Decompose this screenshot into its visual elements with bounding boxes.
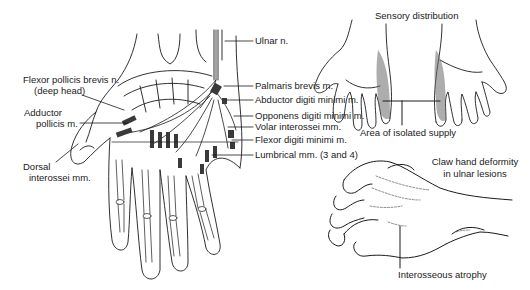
label-dorsal-interossei: Dorsal <box>23 161 50 172</box>
label-interosseous-atrophy: Interosseous atrophy <box>398 269 487 280</box>
label-palmaris-brevis: Palmaris brevis m. <box>255 80 333 91</box>
sensory-distribution-title: Sensory distribution <box>375 10 458 21</box>
label-adductor-pollicis: Adductor <box>24 107 62 118</box>
label-lumbrical: Lumbrical mm. (3 and 4) <box>255 149 358 160</box>
label-flexor-pollicis-brevis-sub: (deep head) <box>34 85 85 96</box>
label-abductor-digiti-minimi: Abductor digiti minimi m. <box>255 94 358 105</box>
label-flexor-pollicis-brevis: Flexor pollicis brevis n. <box>23 74 119 85</box>
label-ulnar-nerve: Ulnar n. <box>255 35 288 46</box>
claw-hand-title-line2: in ulnar lesions <box>420 168 530 179</box>
label-dorsal-interossei-sub: interossei mm. <box>29 172 91 183</box>
label-volar-interossei: Volar interossei mm. <box>255 121 341 132</box>
anatomy-figure: Ulnar n. Palmaris brevis m. Abductor dig… <box>0 0 530 290</box>
label-opponens-digiti-minimi: Opponens digiti minimi m. <box>255 110 364 121</box>
label-area-isolated-supply: Area of isolated supply <box>360 127 456 138</box>
claw-hand-title-line1: Claw hand deformity <box>420 156 530 167</box>
label-adductor-pollicis-sub: pollicis m. <box>36 118 78 129</box>
label-flexor-digiti-minimi: Flexor digiti minimi m. <box>255 134 347 145</box>
